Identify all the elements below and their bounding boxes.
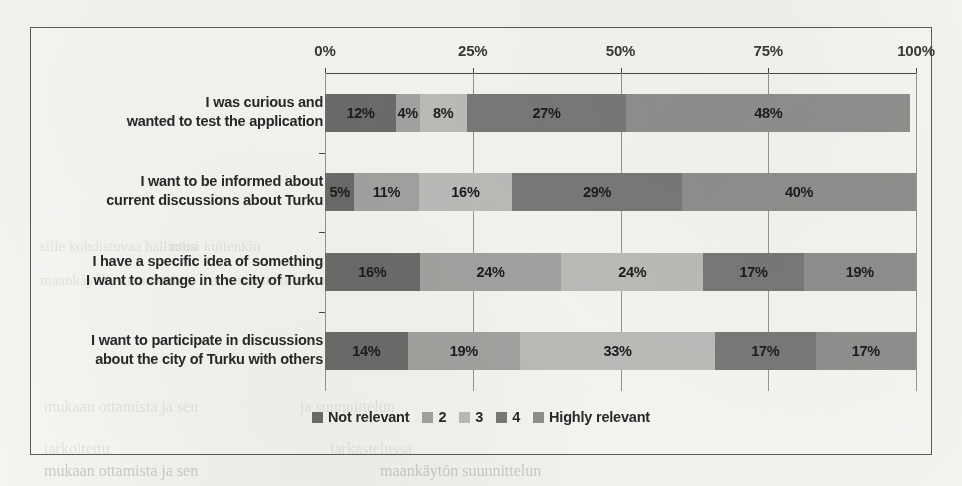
- bar-segment-label: 12%: [346, 105, 374, 121]
- bar-segment-label: 5%: [329, 184, 349, 200]
- bar-segment-label: 17%: [739, 264, 767, 280]
- bar-segment: 48%: [626, 94, 910, 132]
- background-text-line-10: maankäytön suunnittelun: [380, 462, 541, 480]
- y-axis-tick: [319, 232, 325, 233]
- bar-segment: 24%: [420, 253, 562, 291]
- category-label-line: wanted to test the application: [51, 112, 323, 131]
- x-tick-label: 75%: [754, 42, 783, 59]
- bar-segment: 8%: [420, 94, 467, 132]
- legend-label: Highly relevant: [549, 409, 650, 425]
- legend-swatch-icon: [312, 412, 323, 423]
- bar-segment-label: 40%: [785, 184, 813, 200]
- y-axis-tick: [319, 312, 325, 313]
- category-label: I want to participate in discussionsabou…: [51, 331, 323, 369]
- legend-label: 4: [512, 409, 520, 425]
- bar-row: 16%24%24%17%19%: [325, 253, 916, 291]
- bar-segment-label: 17%: [852, 343, 880, 359]
- bar-row: 12%4%8%27%48%: [325, 94, 916, 132]
- bar-segment-label: 29%: [583, 184, 611, 200]
- bar-segment-label: 17%: [751, 343, 779, 359]
- category-label: I was curious andwanted to test the appl…: [51, 93, 323, 131]
- bar-segment-label: 19%: [846, 264, 874, 280]
- chart-frame: 0%25%50%75%100% I was curious andwanted …: [30, 27, 932, 455]
- bar-segment: 33%: [520, 332, 715, 370]
- bar-segment: 24%: [561, 253, 703, 291]
- y-axis-tick: [319, 153, 325, 154]
- x-tick-label: 50%: [606, 42, 635, 59]
- chart-legend: Not relevant234Highly relevant: [31, 409, 931, 425]
- bar-segment-label: 8%: [433, 105, 453, 121]
- bar-segment: 4%: [396, 94, 420, 132]
- scanned-chart-page: sille kohdistuvaa hallintoa tulisi kuite…: [0, 0, 962, 486]
- bar-segment-label: 27%: [533, 105, 561, 121]
- category-label: I want to be informed aboutcurrent discu…: [51, 172, 323, 210]
- bar-segment: 17%: [816, 332, 916, 370]
- bar-segment: 17%: [703, 253, 803, 291]
- legend-item[interactable]: Not relevant: [312, 409, 409, 425]
- category-labels: I was curious andwanted to test the appl…: [41, 73, 323, 391]
- bar-segment: 27%: [467, 94, 627, 132]
- category-label-line: I want to participate in discussions: [51, 331, 323, 350]
- category-label: I have a specific idea of somethingI wan…: [51, 252, 323, 290]
- category-label-line: current discussions about Turku: [51, 191, 323, 210]
- legend-item[interactable]: Highly relevant: [533, 409, 650, 425]
- legend-item[interactable]: 2: [422, 409, 446, 425]
- bar-row: 14%19%33%17%17%: [325, 332, 916, 370]
- legend-swatch-icon: [533, 412, 544, 423]
- category-label-line: I have a specific idea of something: [51, 252, 323, 271]
- legend-swatch-icon: [496, 412, 507, 423]
- legend-label: 3: [475, 409, 483, 425]
- gridline: [916, 73, 917, 391]
- legend-label: Not relevant: [328, 409, 409, 425]
- bar-segment: 16%: [325, 253, 420, 291]
- bar-segment: 17%: [715, 332, 815, 370]
- bar-segment: 19%: [804, 253, 916, 291]
- legend-swatch-icon: [459, 412, 470, 423]
- bar-segment: 5%: [325, 173, 354, 211]
- bar-segment-label: 24%: [476, 264, 504, 280]
- x-tick-label: 100%: [897, 42, 935, 59]
- bar-segment-label: 24%: [618, 264, 646, 280]
- legend-label: 2: [438, 409, 446, 425]
- category-label-line: I was curious and: [51, 93, 323, 112]
- legend-item[interactable]: 4: [496, 409, 520, 425]
- legend-swatch-icon: [422, 412, 433, 423]
- bar-segment-label: 33%: [603, 343, 631, 359]
- plot-area: 12%4%8%27%48%5%11%16%29%40%16%24%24%17%1…: [325, 73, 916, 391]
- bar-segment: 40%: [682, 173, 916, 211]
- bar-segment-label: 16%: [451, 184, 479, 200]
- x-tick-label: 25%: [458, 42, 487, 59]
- bar-segment-label: 14%: [352, 343, 380, 359]
- bar-segment-label: 11%: [373, 184, 400, 200]
- category-label-line: I want to change in the city of Turku: [51, 271, 323, 290]
- category-label-line: I want to be informed about: [51, 172, 323, 191]
- background-text-line-9: mukaan ottamista ja sen: [44, 462, 198, 480]
- bar-segment-label: 16%: [358, 264, 386, 280]
- bar-segment-label: 48%: [754, 105, 782, 121]
- bar-segment: 11%: [354, 173, 418, 211]
- bar-segment-label: 4%: [398, 105, 418, 121]
- bar-segment: 16%: [419, 173, 513, 211]
- bar-segment: 12%: [325, 94, 396, 132]
- x-tick-label: 0%: [314, 42, 335, 59]
- category-label-line: about the city of Turku with others: [51, 350, 323, 369]
- bar-segment: 14%: [325, 332, 408, 370]
- bar-segment-label: 19%: [450, 343, 478, 359]
- legend-item[interactable]: 3: [459, 409, 483, 425]
- bar-row: 5%11%16%29%40%: [325, 173, 916, 211]
- bar-segment: 19%: [408, 332, 520, 370]
- bar-segment: 29%: [512, 173, 682, 211]
